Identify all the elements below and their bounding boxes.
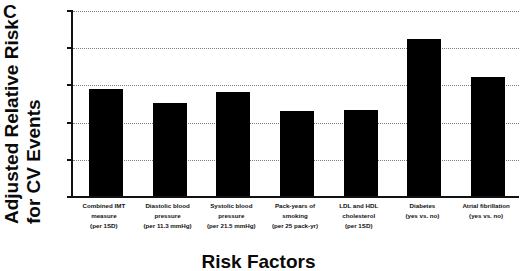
x-category-label-line: Atrial fibrillation — [449, 201, 523, 211]
y-axis-title-line2: for CV Events — [24, 99, 43, 224]
y-tick-2 — [67, 47, 73, 49]
gridline-1.5 — [73, 85, 519, 86]
x-category-label: Atrial fibrillation(yes vs. no) — [449, 201, 523, 221]
bar — [153, 103, 187, 197]
y-tick-0.5 — [67, 159, 73, 161]
plot-inner: 00.511.522.5 — [73, 11, 519, 197]
bar — [216, 92, 250, 197]
bar — [344, 110, 378, 197]
bar — [471, 77, 505, 197]
y-tick-2.5 — [67, 10, 73, 12]
category-labels: Combined IMTmeasure(per 1SD)Diastolic bl… — [71, 201, 517, 251]
y-tick-1 — [67, 122, 73, 124]
bar — [280, 111, 314, 197]
plot-area: 00.511.522.5 — [71, 11, 519, 197]
gridline-2.5 — [73, 11, 519, 12]
bar — [407, 39, 441, 197]
x-category-label-line: (yes vs. no) — [449, 211, 523, 221]
gridline-2 — [73, 48, 519, 49]
x-axis-baseline — [71, 196, 519, 198]
bar — [89, 89, 123, 197]
x-axis-title: Risk Factors — [0, 252, 517, 271]
y-axis-title-line1: Adjusted Relative Risk — [2, 19, 21, 224]
x-category-label-line: (per 1SD) — [322, 221, 396, 231]
y-tick-1.5 — [67, 84, 73, 86]
